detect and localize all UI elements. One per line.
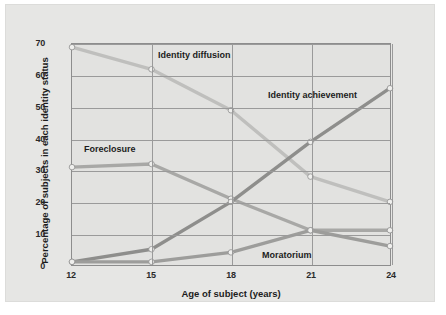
data-point-marker xyxy=(69,259,75,265)
y-axis-tick-label: 0 xyxy=(25,261,45,271)
x-axis-tick-label: 15 xyxy=(138,270,164,280)
y-axis-tick-label: 20 xyxy=(25,197,45,207)
y-axis-tick-label: 30 xyxy=(25,165,45,175)
y-axis-tick-label: 70 xyxy=(25,38,45,48)
x-axis-tick-label: 24 xyxy=(378,270,404,280)
chart-card: Percentage of subjects in each identity … xyxy=(6,5,434,301)
gridline-horizontal xyxy=(72,235,390,236)
gridline-vertical xyxy=(152,44,153,265)
data-point-marker xyxy=(69,164,75,170)
gridline-horizontal xyxy=(72,44,390,45)
gridline-vertical xyxy=(232,44,233,265)
series-label-moratorium: Moratorium xyxy=(262,250,312,260)
series-lines xyxy=(72,44,390,265)
series-label-identity-achievement: Identity achievement xyxy=(268,90,357,100)
series-line xyxy=(72,47,390,202)
series-label-foreclosure: Foreclosure xyxy=(84,144,136,154)
x-axis-title: Age of subject (years) xyxy=(71,288,391,299)
gridline-vertical xyxy=(312,44,313,265)
y-axis-tick-label: 50 xyxy=(25,102,45,112)
gridline-horizontal xyxy=(72,108,390,109)
data-point-marker xyxy=(69,44,75,50)
gridline-horizontal xyxy=(72,203,390,204)
gridline-vertical xyxy=(392,44,393,265)
plot-area xyxy=(71,43,391,266)
gridline-horizontal xyxy=(72,76,390,77)
series-label-identity-diffusion: Identity diffusion xyxy=(158,50,231,60)
x-axis-tick-label: 18 xyxy=(218,270,244,280)
y-axis-tick-label: 40 xyxy=(25,134,45,144)
gridline-horizontal xyxy=(72,140,390,141)
y-axis-tick-label: 10 xyxy=(25,229,45,239)
x-axis-tick-label: 21 xyxy=(298,270,324,280)
gridline-horizontal xyxy=(72,171,390,172)
y-axis-tick-label: 60 xyxy=(25,70,45,80)
x-axis-tick-label: 12 xyxy=(58,270,84,280)
